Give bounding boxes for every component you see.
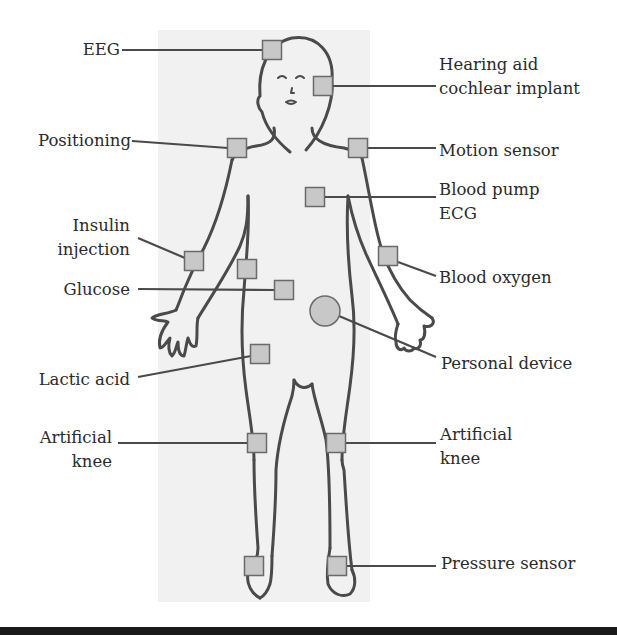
- sensor-marker-bloodpump: [306, 188, 325, 207]
- left-leg-inner: [272, 380, 294, 556]
- sensor-marker-lower-chest: [238, 260, 257, 279]
- right-leg-inner: [312, 384, 330, 548]
- label-insulin-injection: Insulin injection: [20, 214, 130, 262]
- label-artificial-knee-right: Artificial knee: [440, 423, 512, 471]
- sensor-marker-foot-right: [328, 557, 347, 576]
- sensor-marker-knee-right: [327, 434, 346, 453]
- right-arm-outer: [362, 158, 432, 318]
- sensor-marker-insulin: [185, 252, 204, 271]
- sensor-marker-foot-left: [245, 557, 264, 576]
- sensor-marker-personal: [310, 296, 340, 326]
- left-leg-outer: [248, 460, 260, 598]
- label-motion-sensor: Motion sensor: [439, 139, 559, 163]
- eye-left: [278, 76, 286, 78]
- label-blood-pump-ecg: Blood pump ECG: [439, 178, 539, 226]
- bottom-border-bar: [0, 627, 617, 635]
- sensor-marker-bloodoxygen: [379, 247, 398, 266]
- sensor-marker-positioning: [228, 139, 247, 158]
- right-hand: [395, 318, 433, 351]
- leader-insulin: [138, 238, 185, 258]
- leader-bloodoxygen: [398, 262, 436, 276]
- label-lactic-acid: Lactic acid: [10, 368, 130, 392]
- sensor-marker-motion: [349, 139, 368, 158]
- leader-positioning: [132, 141, 228, 148]
- sensor-marker-eeg: [263, 41, 282, 60]
- sensor-markers: [185, 41, 398, 576]
- nose: [291, 88, 294, 93]
- label-positioning: Positioning: [10, 129, 131, 153]
- label-pressure-sensor: Pressure sensor: [441, 552, 575, 576]
- sensor-marker-knee-left: [248, 434, 267, 453]
- diagram-canvas: EEG Hearing aid cochlear implant Positio…: [0, 0, 617, 635]
- label-artificial-knee-left: Artificial knee: [20, 426, 112, 474]
- sensor-marker-hearing: [314, 77, 333, 96]
- left-hand: [152, 310, 198, 356]
- leader-lactic: [138, 356, 251, 377]
- right-leg-outer: [342, 460, 352, 570]
- sensor-marker-glucose: [275, 281, 294, 300]
- label-blood-oxygen: Blood oxygen: [439, 266, 552, 290]
- label-hearing-aid-cochlear-implant: Hearing aid cochlear implant: [439, 53, 580, 101]
- label-glucose: Glucose: [20, 278, 130, 302]
- eye-right: [296, 76, 304, 78]
- leader-glucose: [138, 289, 275, 290]
- left-arm-inner: [198, 196, 248, 318]
- label-eeg: EEG: [60, 38, 120, 62]
- mouth: [286, 101, 296, 105]
- label-personal-device: Personal device: [441, 352, 572, 376]
- body-outline: [152, 37, 433, 598]
- torso-right: [342, 196, 354, 460]
- left-arm-outer: [176, 160, 232, 310]
- crotch: [294, 380, 312, 387]
- sensor-marker-lactic: [251, 345, 270, 364]
